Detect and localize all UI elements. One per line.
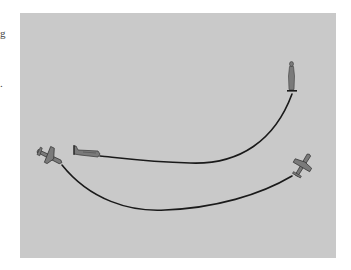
airplane-level-icon — [74, 145, 100, 157]
upper-trajectory-curve — [100, 94, 292, 163]
lower-trajectory-curve — [62, 165, 292, 210]
standing-person-icon — [287, 62, 297, 92]
trajectory-diagram — [0, 0, 351, 270]
